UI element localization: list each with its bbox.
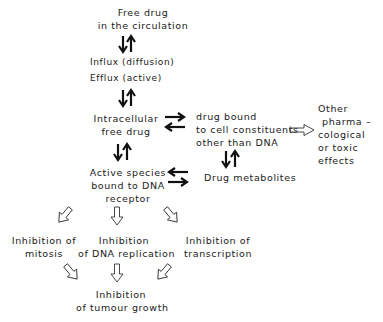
arrows-layer [0, 0, 383, 322]
reversible-arrow-transport-intracellular [119, 90, 135, 106]
hollow-arrow-mitosis-to-tumour [61, 261, 82, 283]
hollow-arrow-active-to-transcription [161, 204, 182, 226]
hollow-arrow-dna-to-tumour [111, 264, 123, 282]
hollow-arrow-active-to-dna [111, 207, 123, 225]
hollow-arrow-bound-to-other-effects [290, 125, 314, 136]
reversible-arrow-intracellular-active [114, 144, 131, 160]
reversible-arrow-active-metabolites [168, 168, 188, 186]
reversible-arrow-intracellular-bound [165, 113, 185, 131]
hollow-arrow-active-to-mitosis [54, 204, 75, 226]
reversible-arrow-circulation-transport [119, 36, 135, 52]
reversible-arrow-bound-metabolites [222, 151, 239, 167]
hollow-arrow-transcription-to-tumour [153, 261, 174, 283]
